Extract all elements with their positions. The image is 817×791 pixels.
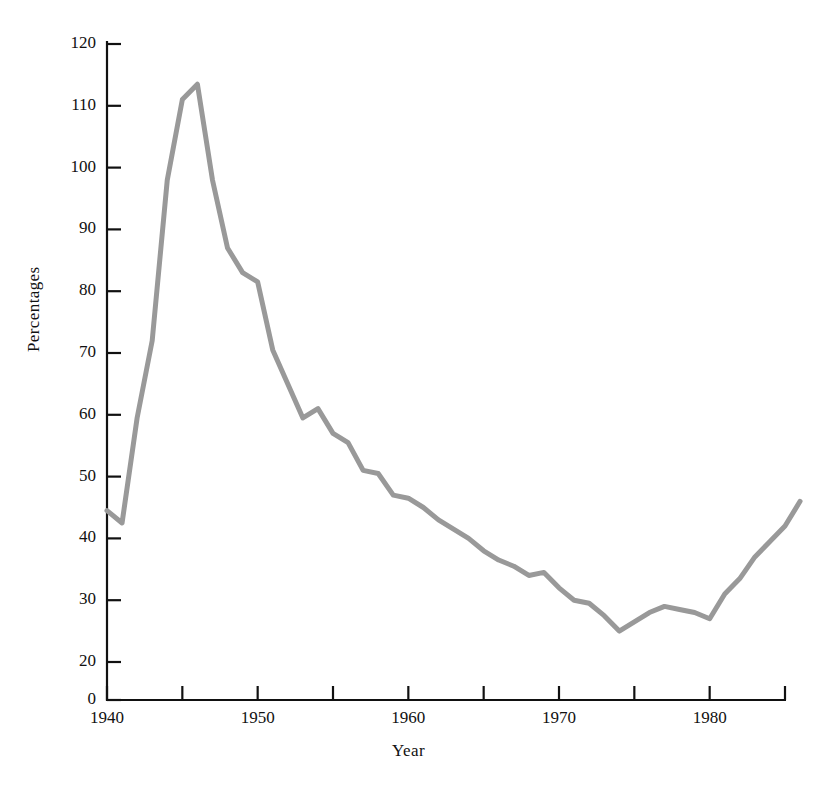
y-tick-label: 0 <box>44 689 96 709</box>
x-tick-label: 1950 <box>223 708 293 728</box>
y-axis-title: Percentages <box>24 312 44 352</box>
y-tick-label: 40 <box>44 527 96 547</box>
y-tick-label: 20 <box>44 651 96 671</box>
y-tick-label: 120 <box>44 33 96 53</box>
line-chart: 02030405060708090100110120 1940195019601… <box>0 0 817 791</box>
y-tick-label: 60 <box>44 404 96 424</box>
y-tick-label: 100 <box>44 157 96 177</box>
x-tick-label: 1970 <box>524 708 594 728</box>
y-tick-label: 90 <box>44 218 96 238</box>
data-series-line <box>107 84 800 631</box>
x-tick-label: 1960 <box>373 708 443 728</box>
y-tick-marks <box>107 44 121 700</box>
y-tick-label: 110 <box>44 95 96 115</box>
axis-lines <box>107 41 786 700</box>
y-tick-label: 70 <box>44 342 96 362</box>
x-tick-marks <box>107 686 785 700</box>
chart-plot-area <box>0 0 817 791</box>
x-tick-label: 1940 <box>72 708 142 728</box>
y-tick-label: 50 <box>44 466 96 486</box>
x-tick-label: 1980 <box>675 708 745 728</box>
axes <box>107 41 786 700</box>
y-tick-label: 30 <box>44 589 96 609</box>
x-axis-title: Year <box>0 741 817 761</box>
y-tick-label: 80 <box>44 280 96 300</box>
